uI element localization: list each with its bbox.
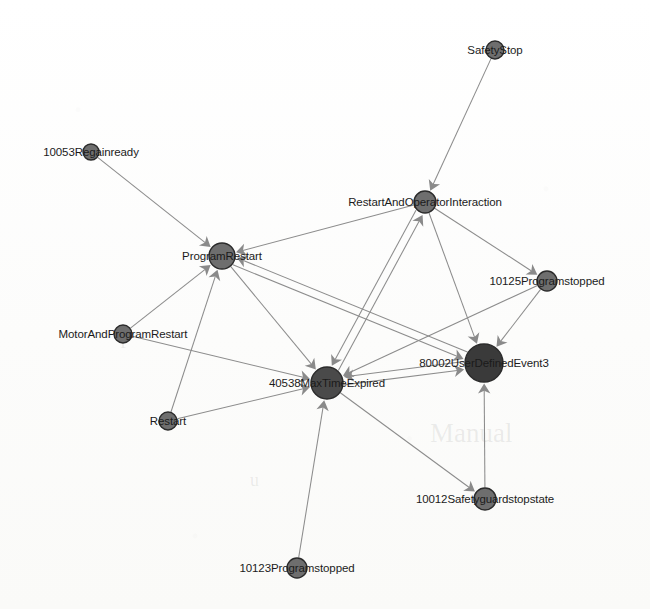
graph-node-10125programstopped[interactable]	[537, 271, 557, 291]
edge-arrowhead	[412, 215, 423, 227]
graph-node-10123programstopped[interactable]	[287, 558, 307, 578]
graph-node-restartandoperatorinteraction[interactable]	[414, 191, 436, 213]
graph-edge	[435, 208, 532, 271]
graph-edge	[340, 393, 469, 488]
edge-arrowhead	[199, 265, 211, 276]
graph-edge	[299, 407, 323, 557]
edge-arrowhead	[331, 354, 342, 366]
graph-edge	[243, 205, 414, 251]
graph-node-80002userdefinedevent3[interactable]	[465, 344, 503, 382]
edges-group	[98, 59, 541, 558]
graph-edge	[429, 213, 475, 337]
graph-edge	[98, 157, 206, 242]
graph-edge	[501, 289, 541, 341]
graph-node-programrestart[interactable]	[209, 243, 235, 269]
graph-node-10012safetyguardstopstate[interactable]	[474, 488, 496, 510]
graph-node-restart[interactable]	[159, 412, 177, 430]
graph-node-10053regainready[interactable]	[83, 144, 99, 160]
edge-arrowhead	[496, 335, 507, 347]
graph-edge	[231, 266, 312, 364]
graph-edge	[130, 269, 205, 328]
edge-arrowhead	[463, 481, 475, 492]
edge-arrowhead	[305, 358, 316, 370]
graph-edge	[433, 59, 491, 185]
graph-edge	[484, 391, 485, 488]
edge-arrowhead	[199, 236, 211, 247]
graph-edge	[177, 389, 303, 419]
graph-edge	[344, 370, 457, 384]
graph-edge	[335, 210, 416, 359]
graph-svg	[0, 0, 650, 609]
graph-edge	[171, 276, 215, 412]
graph-node-safetystop[interactable]	[486, 41, 504, 59]
graph-edge	[338, 221, 419, 370]
graph-canvas: Manualfu SafetyStop10053RegainreadyResta…	[0, 0, 650, 609]
graph-node-40538maxtimeexpired[interactable]	[311, 367, 343, 399]
graph-edge	[132, 336, 303, 377]
graph-node-motorandprogramrestart[interactable]	[114, 325, 132, 343]
edge-arrowhead	[526, 264, 538, 275]
